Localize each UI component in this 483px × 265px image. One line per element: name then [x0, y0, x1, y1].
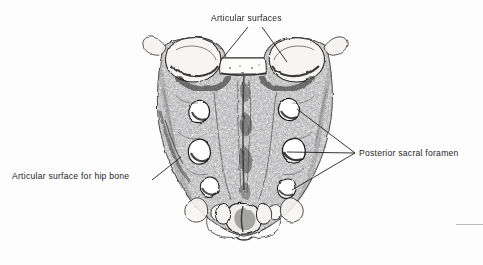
foramen-left-1: [189, 100, 210, 122]
sacral-hiatus: [226, 203, 262, 234]
foramen-right-1: [278, 98, 299, 120]
page-rule: [456, 224, 483, 225]
sacrum-illustration: [0, 0, 483, 265]
leader-articular-surfaces-left: [222, 27, 248, 59]
foramen-right-3: [277, 179, 296, 198]
superior-articular-process-left: [166, 38, 221, 82]
foramen-right-2: [282, 138, 305, 163]
foramen-left-3: [200, 177, 219, 197]
superior-articular-process-right: [269, 38, 324, 82]
label-articular-surface-for-hip-bone: Articular surface for hip bone: [12, 172, 129, 181]
sacral-canal-opening: [220, 58, 267, 75]
foramen-left-2: [188, 139, 210, 164]
anatomical-figure: Articular surfaces Posterior sacral fora…: [0, 0, 483, 265]
label-posterior-sacral-foramen: Posterior sacral foramen: [359, 149, 459, 158]
label-articular-surfaces: Articular surfaces: [211, 14, 282, 23]
